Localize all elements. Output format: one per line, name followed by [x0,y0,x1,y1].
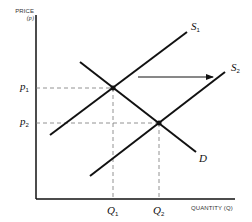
equilibrium-point-2 [157,121,162,126]
price-label-p2: p2 [20,115,29,128]
quantity-label-q1: Q1 [107,204,118,217]
q2-subscript: 2 [161,211,164,217]
y-axis-symbol: (p) [12,15,34,22]
s2-subscript: 2 [237,68,240,74]
p1-subscript: 1 [26,87,29,93]
p2-subscript: 2 [26,122,29,128]
quantity-label-q2: Q2 [153,204,164,217]
demand-label: D [199,152,207,164]
supply-label-s2: S2 [231,61,240,74]
price-label-p1: p1 [20,80,29,93]
q2-symbol: Q [153,204,161,216]
equilibrium-point-1 [111,86,116,91]
supply-curve-s1 [50,32,187,135]
s1-subscript: 1 [197,27,200,33]
q1-symbol: Q [107,204,115,216]
y-axis-title: PRICE [12,8,34,15]
y-axis-label: PRICE (p) [12,8,34,22]
q1-subscript: 1 [115,211,118,217]
supply-demand-diagram [0,0,252,222]
supply-label-s1: S1 [191,20,200,33]
x-axis-label: QUANTITY (Q) [191,205,233,211]
